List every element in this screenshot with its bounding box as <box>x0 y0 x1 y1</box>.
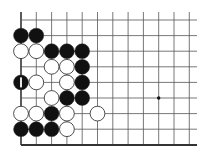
black-stone[interactable] <box>14 122 29 137</box>
white-stone[interactable] <box>60 75 75 90</box>
black-stone[interactable] <box>44 122 59 137</box>
black-stone-icon <box>29 28 44 43</box>
black-stone-icon <box>75 59 90 74</box>
white-stone[interactable] <box>60 122 75 137</box>
black-stone-icon <box>44 106 59 121</box>
black-stone[interactable] <box>29 122 44 137</box>
white-stone[interactable] <box>60 106 75 121</box>
black-stone-icon <box>60 91 75 106</box>
white-stone-icon <box>90 106 105 121</box>
white-stone[interactable] <box>60 59 75 74</box>
black-stone[interactable] <box>44 44 59 59</box>
black-stone[interactable] <box>75 75 90 90</box>
black-stone-icon <box>75 44 90 59</box>
white-stone-icon <box>29 106 44 121</box>
white-stone-icon <box>44 91 59 106</box>
black-stone[interactable] <box>75 44 90 59</box>
white-stone-icon <box>60 75 75 90</box>
black-stone-icon <box>14 28 29 43</box>
black-stone[interactable] <box>60 91 75 106</box>
white-stone-icon <box>60 59 75 74</box>
star-points <box>157 96 160 99</box>
black-stone-icon <box>44 44 59 59</box>
white-stone[interactable] <box>44 59 59 74</box>
white-stone-icon <box>44 59 59 74</box>
black-stone[interactable] <box>14 28 29 43</box>
black-stone[interactable] <box>14 75 29 90</box>
black-stone[interactable] <box>29 28 44 43</box>
black-stone[interactable] <box>60 44 75 59</box>
white-stone[interactable] <box>29 44 44 59</box>
white-stone[interactable] <box>44 91 59 106</box>
black-stone-icon <box>29 122 44 137</box>
white-stone-icon <box>29 75 44 90</box>
black-stone-icon <box>14 122 29 137</box>
white-stone[interactable] <box>14 106 29 121</box>
white-stone[interactable] <box>14 44 29 59</box>
go-board[interactable] <box>0 0 211 162</box>
white-stone-icon <box>14 106 29 121</box>
black-stone[interactable] <box>75 91 90 106</box>
black-stone[interactable] <box>44 106 59 121</box>
stone-mark-icon <box>20 77 22 87</box>
white-stone-icon <box>29 44 44 59</box>
white-stone[interactable] <box>90 106 105 121</box>
white-stone[interactable] <box>29 75 44 90</box>
black-stone-icon <box>60 44 75 59</box>
white-stone-icon <box>14 44 29 59</box>
white-stone-icon <box>60 122 75 137</box>
white-stone-icon <box>60 106 75 121</box>
black-stone-icon <box>44 122 59 137</box>
black-stone-icon <box>75 75 90 90</box>
black-stone-icon <box>75 91 90 106</box>
black-stone[interactable] <box>75 59 90 74</box>
white-stone[interactable] <box>29 106 44 121</box>
star-point-icon <box>157 96 160 99</box>
